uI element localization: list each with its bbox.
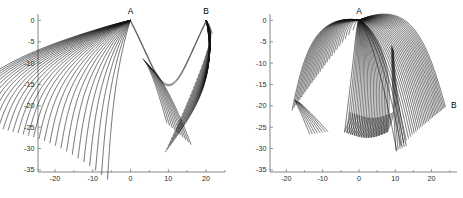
figure-container: -20-10010200-5-10-15-20-25-30-35AB -20-1… [0, 0, 463, 198]
chart-panel-left: -20-10010200-5-10-15-20-25-30-35AB [0, 0, 231, 198]
point-label-b: B [203, 6, 209, 16]
curve-family-right [292, 14, 445, 151]
trajectory-curve [108, 20, 131, 179]
trajectory-curve [147, 64, 180, 135]
chart-panel-right: -20-10010200-5-10-15-20-25-30-35AB [232, 0, 463, 198]
x-tick-label: 10 [164, 174, 172, 183]
x-tick-label: -10 [88, 174, 98, 183]
plot-left: -20-10010200-5-10-15-20-25-30-35AB [0, 0, 231, 198]
y-tick-label: -30 [256, 144, 266, 153]
trajectory-curve [102, 20, 131, 174]
point-label-a: A [128, 6, 134, 16]
plot-right: -20-10010200-5-10-15-20-25-30-35AB [232, 0, 463, 198]
point-labels-left: AB [128, 6, 210, 16]
x-tick-label: 0 [129, 174, 133, 183]
trajectory-curve [44, 20, 130, 140]
y-tick-label: 0 [31, 16, 35, 25]
x-tick-label: 20 [202, 174, 210, 183]
x-tick-label: -20 [281, 174, 291, 183]
y-tick-label: -10 [256, 59, 266, 68]
y-tick-label: 0 [263, 16, 267, 25]
y-tick-label: -30 [24, 144, 34, 153]
y-tick-label: -35 [24, 165, 34, 174]
y-tick-label: -15 [256, 80, 266, 89]
point-label-b: B [451, 100, 457, 110]
y-tick-label: -25 [256, 123, 266, 132]
x-tick-label: -10 [317, 174, 327, 183]
x-tick-label: -20 [50, 174, 60, 183]
trajectory-curve [145, 62, 175, 130]
trajectory-curve [131, 20, 207, 84]
x-tick-label: 0 [357, 174, 361, 183]
x-tick-label: 20 [428, 174, 436, 183]
y-tick-label: -5 [28, 37, 34, 46]
y-tick-label: -5 [260, 37, 266, 46]
y-tick-label: -35 [256, 165, 266, 174]
point-label-a: A [356, 6, 362, 16]
x-tick-label: 10 [391, 174, 399, 183]
trajectory-curve [131, 22, 207, 86]
y-tick-label: -20 [256, 101, 266, 110]
trajectory-curve [8, 20, 130, 130]
